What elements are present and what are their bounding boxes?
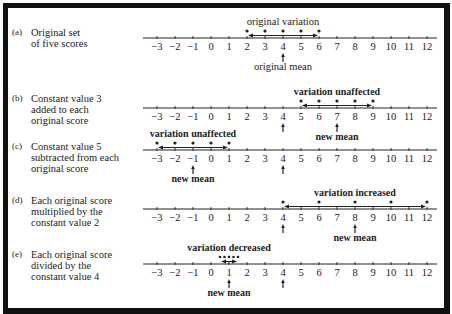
panel-d-tick-label: 8 [352, 212, 357, 223]
panel-e-tick-label: 5 [298, 267, 303, 278]
panel-c-mean-label: new mean [171, 173, 214, 184]
panel-c-tick-label: 8 [352, 153, 357, 164]
panel-a-tick-label: 9 [370, 41, 375, 52]
panel-c-tick-label: 9 [370, 153, 375, 164]
panel-c-arrow-left-head [158, 146, 163, 150]
panel-b-tick-label: −2 [169, 111, 180, 122]
panel-a-mean-label: original mean [254, 61, 313, 72]
panel-b-arrow-left-head [302, 104, 307, 108]
panel-e-mean-arrow-head [227, 279, 231, 283]
panel-b-score-dot [371, 99, 374, 102]
panel-c-arrow-right-head [223, 146, 228, 150]
panel-b-tick-label: 11 [404, 111, 414, 122]
panel-d-mean-label: new mean [333, 232, 376, 243]
panel-e-score-dot [228, 256, 231, 259]
panel-b-tick-label: 3 [262, 111, 267, 122]
panel-c-tick-label: 5 [298, 153, 303, 164]
panel-e-tick-label: 6 [316, 267, 321, 278]
panel-d-tick-label: 12 [422, 212, 433, 223]
panel-e-tick-label: 4 [280, 267, 286, 278]
panel-e-tick-label: 1 [226, 267, 231, 278]
panel-e-tick-label: 2 [244, 267, 249, 278]
panel-d-tick-label: 11 [404, 212, 414, 223]
panel-c-score-dot [191, 141, 194, 144]
panel-b-mean-arrow-head [335, 123, 339, 127]
panel-c-tick-label: 3 [262, 153, 267, 164]
panel-a-tick-label: 4 [280, 41, 286, 52]
panel-b-arrow-right-head [367, 104, 372, 108]
panel-b-score-dot [353, 99, 356, 102]
panel-e-tick-label: 12 [422, 267, 433, 278]
panel-e-tick-label: 9 [370, 267, 375, 278]
panel-d-tick-label: 1 [226, 212, 231, 223]
panel-a-tick-label: −1 [187, 41, 198, 52]
panel-a-tick-label: 6 [316, 41, 321, 52]
panel-a-tick-label: 12 [422, 41, 433, 52]
panel-e-original-mean-arrow-head [281, 279, 285, 283]
panel-a-tick-label: 3 [262, 41, 267, 52]
panel-e-tick-label: 0 [208, 267, 213, 278]
panel-c-original-mean-arrow-head [281, 165, 285, 169]
panel-d-arrow-left-head [284, 205, 289, 209]
panel-a-tick-label: 10 [386, 41, 397, 52]
panel-c-score-dot [209, 141, 212, 144]
panel-c-score-dot [227, 141, 230, 144]
panel-d-tick-label: 0 [208, 212, 213, 223]
panel-a-variation-annotation: original variation [247, 16, 320, 27]
panel-a-tick-label: 11 [404, 41, 414, 52]
panel-b-mean-label: new mean [315, 131, 358, 142]
panel-e-tick-label: −3 [151, 267, 162, 278]
panel-b-tick-label: 6 [316, 111, 321, 122]
panel-c-score-dot [173, 141, 176, 144]
panel-b-score-dot [299, 99, 302, 102]
panel-c-tick-label: −3 [151, 153, 162, 164]
panel-d-score-dot [281, 200, 284, 203]
panel-c-tick-label: 10 [386, 153, 397, 164]
panel-b-tick-label: 10 [386, 111, 397, 122]
panel-a-tick-label: 1 [226, 41, 231, 52]
panel-e-score-dot [237, 256, 240, 259]
panel-a-tick-label: −2 [169, 41, 180, 52]
panel-b-score-dot [335, 99, 338, 102]
panel-d-tick-label: −1 [187, 212, 198, 223]
panel-a-tick-label: 2 [244, 41, 249, 52]
panel-e-tick-label: 8 [352, 267, 357, 278]
panel-d-tick-label: 5 [298, 212, 303, 223]
panel-d-arrow-right-head [421, 205, 426, 209]
panel-e-arrow-left-head [221, 260, 226, 264]
panel-d-variation-annotation: variation increased [314, 187, 396, 198]
panel-b-tick-label: 0 [208, 111, 213, 122]
panel-d-score-dot [353, 200, 356, 203]
panel-c-tick-label: −2 [169, 153, 180, 164]
panel-e-tick-label: 3 [262, 267, 267, 278]
panel-a-tick-label: 0 [208, 41, 213, 52]
panel-e-tick-label: −1 [187, 267, 198, 278]
panel-a-tick-label: −3 [151, 41, 162, 52]
panel-d-tick-label: 3 [262, 212, 267, 223]
panel-d-original-mean-arrow-head [281, 224, 285, 228]
panel-c-tick-label: 11 [404, 153, 414, 164]
panel-c-tick-label: 1 [226, 153, 231, 164]
panel-e-tick-label: 11 [404, 267, 414, 278]
panel-d-tick-label: 10 [386, 212, 397, 223]
panel-d-mean-arrow-head [353, 224, 357, 228]
panel-b-tick-label: −1 [187, 111, 198, 122]
panel-d-tick-label: 6 [316, 212, 321, 223]
panel-a-score-dot [281, 29, 284, 32]
panel-e-score-dot [223, 256, 226, 259]
panel-e-variation-annotation: variation decreased [187, 242, 271, 253]
panel-b-tick-label: 12 [422, 111, 433, 122]
panel-c-tick-label: 2 [244, 153, 249, 164]
panel-c-tick-label: 6 [316, 153, 321, 164]
panel-a-score-dot [245, 29, 248, 32]
panel-d-score-dot [389, 200, 392, 203]
panel-d-score-dot [425, 200, 428, 203]
panel-b-tick-label: 2 [244, 111, 249, 122]
panel-e-arrow-right-head [232, 260, 237, 264]
panel-c-variation-annotation: variation unaffected [150, 128, 237, 139]
panel-d-score-dot [317, 200, 320, 203]
panel-d-tick-label: 7 [334, 212, 339, 223]
panel-a-arrow-left-head [248, 34, 253, 38]
number-line-diagram: −3−2−10123456789101112original variation… [0, 0, 452, 314]
panel-b-tick-label: 8 [352, 111, 357, 122]
